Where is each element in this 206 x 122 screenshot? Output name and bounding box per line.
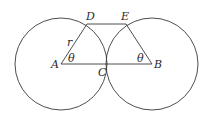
label-b: B <box>153 58 162 71</box>
label-a: A <box>50 58 59 71</box>
label-e: E <box>120 10 129 23</box>
label-angle-left: θ <box>68 52 75 65</box>
label-d: D <box>85 10 95 23</box>
label-angle-right: θ <box>137 52 144 65</box>
label-c: C <box>98 66 107 79</box>
label-radius: r <box>67 36 73 49</box>
tangent-circles-diagram: A B C D E r θ θ <box>0 0 206 122</box>
